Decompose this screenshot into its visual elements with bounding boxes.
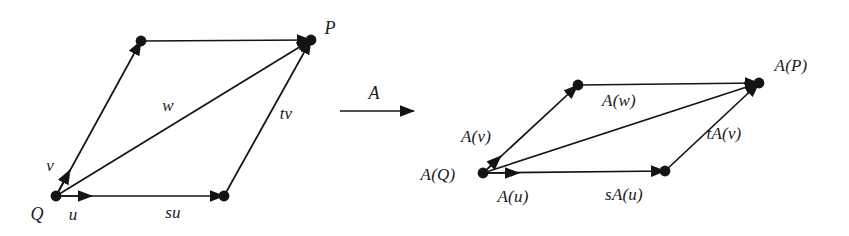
vector-sAu-arrow <box>483 171 665 173</box>
label-P: P <box>324 19 335 37</box>
label-w: w <box>162 97 174 114</box>
label-AQ: A(Q) <box>421 166 456 183</box>
label-Aw: A(w) <box>602 92 636 109</box>
vector-w-arrow <box>56 40 311 196</box>
figure-canvas <box>0 0 849 236</box>
vertex-AQ <box>478 168 489 179</box>
label-Q: Q <box>30 205 43 223</box>
top-edge-arrow <box>141 40 311 41</box>
label-tAv: tA(v) <box>707 125 742 142</box>
vector-tv-arrow <box>224 40 311 196</box>
label-Au: A(u) <box>497 188 528 205</box>
label-su: su <box>165 204 181 221</box>
vertex-source-bottom-right <box>219 191 230 202</box>
vertex-Q <box>51 191 62 202</box>
vertex-image-top-left <box>573 80 584 91</box>
label-sAu: sA(u) <box>605 186 643 203</box>
vertex-P <box>306 35 317 46</box>
label-tv: tv <box>280 105 293 122</box>
label-v: v <box>46 157 54 174</box>
label-Av: A(v) <box>461 128 491 145</box>
label-transformation-A: A <box>368 84 379 102</box>
image-top-edge-arrow <box>578 83 759 85</box>
label-AP: A(P) <box>775 57 808 74</box>
label-u: u <box>69 206 78 223</box>
linear-transformation-figure: Q P u v w su tv A A(Q) A(P) A(u) A(v) A(… <box>0 0 849 236</box>
vertex-image-bottom-right <box>660 166 671 177</box>
source-parallelogram-edges <box>56 40 311 196</box>
vertex-source-top-left <box>136 36 147 47</box>
vertex-AP <box>754 78 765 89</box>
